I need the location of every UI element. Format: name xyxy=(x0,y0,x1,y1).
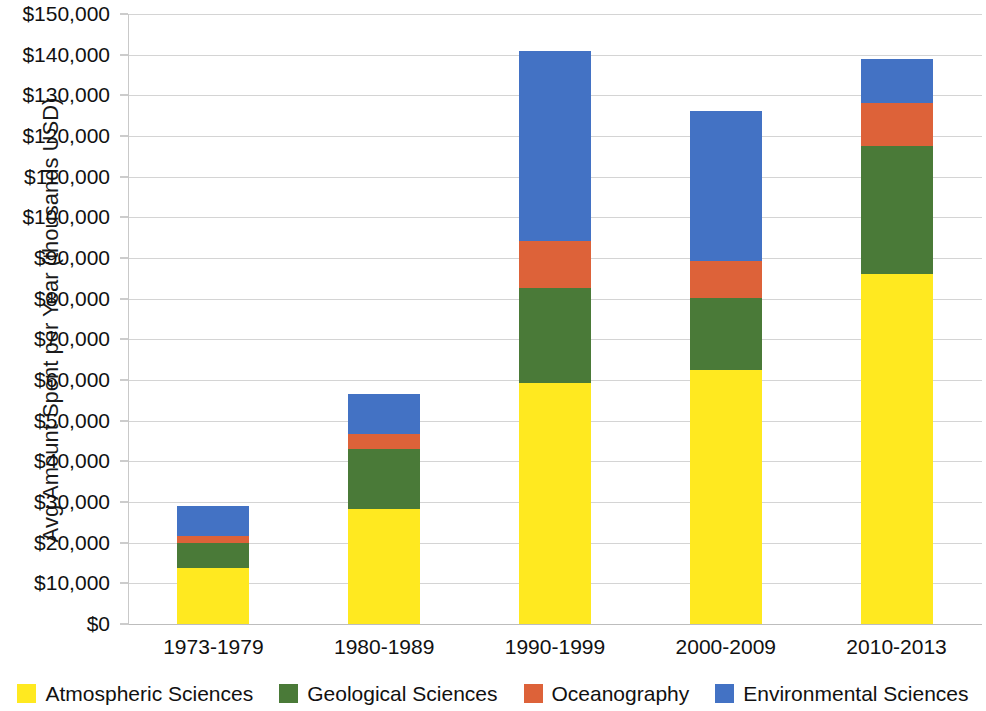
chart-legend: Atmospheric SciencesGeological SciencesO… xyxy=(0,676,986,711)
stacked-bar[interactable] xyxy=(861,59,933,624)
y-axis-tick-mark xyxy=(120,176,128,177)
x-axis-tick-label: 1990-1999 xyxy=(470,628,641,668)
y-axis-tick-mark xyxy=(120,542,128,543)
y-axis-tick-mark xyxy=(120,95,128,96)
y-axis-tick-mark xyxy=(120,258,128,259)
legend-swatch-icon xyxy=(17,684,36,703)
stacked-bar[interactable] xyxy=(348,394,420,624)
y-axis-tick-label: $120,000 xyxy=(22,124,110,148)
y-axis-tick-label: $80,000 xyxy=(34,287,110,311)
bar-segment[interactable] xyxy=(861,59,933,103)
y-axis-tick-mark xyxy=(120,136,128,137)
legend-item[interactable]: Oceanography xyxy=(524,682,690,706)
y-axis-tick-label: $0 xyxy=(87,612,110,636)
x-axis-tick-label: 2000-2009 xyxy=(640,628,811,668)
x-axis-tick-label: 1980-1989 xyxy=(299,628,470,668)
bar-segment[interactable] xyxy=(177,536,249,543)
x-axis-tick-label: 2010-2013 xyxy=(811,628,982,668)
y-axis-tick-label: $70,000 xyxy=(34,327,110,351)
bar-segment[interactable] xyxy=(348,509,420,624)
stacked-bar[interactable] xyxy=(177,506,249,624)
bar-segment[interactable] xyxy=(861,146,933,274)
bar-slot xyxy=(640,14,811,624)
legend-swatch-icon xyxy=(715,684,734,703)
bar-segment[interactable] xyxy=(519,383,591,624)
legend-label: Geological Sciences xyxy=(307,682,497,706)
legend-item[interactable]: Environmental Sciences xyxy=(715,682,968,706)
y-axis-tick-label: $140,000 xyxy=(22,43,110,67)
x-axis-tick-labels: 1973-19791980-19891990-19992000-20092010… xyxy=(128,628,982,668)
y-axis-tick-label: $10,000 xyxy=(34,571,110,595)
bar-segment[interactable] xyxy=(348,434,420,449)
stacked-bar-chart: Avg Amount Spent per Year (thousands USD… xyxy=(0,0,986,711)
bar-slot xyxy=(128,14,299,624)
bar-segment[interactable] xyxy=(690,298,762,370)
y-axis-tick-mark xyxy=(120,14,128,15)
y-axis-tick-mark xyxy=(120,583,128,584)
y-axis-tick-mark xyxy=(120,339,128,340)
bar-slot xyxy=(299,14,470,624)
y-axis-tick-label: $150,000 xyxy=(22,2,110,26)
y-axis-tick-label: $20,000 xyxy=(34,531,110,555)
y-axis-tick-label: $100,000 xyxy=(22,205,110,229)
legend-swatch-icon xyxy=(279,684,298,703)
bar-segment[interactable] xyxy=(519,51,591,240)
y-axis-tick-mark xyxy=(120,624,128,625)
bar-segment[interactable] xyxy=(348,394,420,434)
y-axis-tick-mark xyxy=(120,420,128,421)
legend-label: Atmospheric Sciences xyxy=(45,682,253,706)
bar-slot xyxy=(811,14,982,624)
bar-segment[interactable] xyxy=(861,274,933,624)
bar-series-group xyxy=(128,14,982,624)
axis-baseline xyxy=(128,624,982,625)
y-axis-tick-mark xyxy=(120,54,128,55)
bar-segment[interactable] xyxy=(519,241,591,288)
x-axis-tick-label: 1973-1979 xyxy=(128,628,299,668)
bar-segment[interactable] xyxy=(348,449,420,509)
y-axis-tick-label: $60,000 xyxy=(34,368,110,392)
bar-segment[interactable] xyxy=(690,370,762,624)
y-axis-tick-label: $130,000 xyxy=(22,83,110,107)
legend-item[interactable]: Geological Sciences xyxy=(279,682,497,706)
legend-label: Oceanography xyxy=(552,682,690,706)
bar-segment[interactable] xyxy=(861,103,933,146)
y-axis-tick-label: $110,000 xyxy=(24,165,110,189)
y-axis-tick-mark xyxy=(120,461,128,462)
y-axis-tick-label: $30,000 xyxy=(34,490,110,514)
stacked-bar[interactable] xyxy=(690,111,762,624)
y-axis-tick-label: $90,000 xyxy=(34,246,110,270)
legend-label: Environmental Sciences xyxy=(743,682,968,706)
bar-segment[interactable] xyxy=(690,111,762,261)
y-axis-tick-mark xyxy=(120,502,128,503)
y-axis-tick-mark xyxy=(120,298,128,299)
legend-item[interactable]: Atmospheric Sciences xyxy=(17,682,253,706)
y-axis-tick-mark xyxy=(120,217,128,218)
y-axis-tick-label: $50,000 xyxy=(34,409,110,433)
bar-slot xyxy=(470,14,641,624)
bar-segment[interactable] xyxy=(177,568,249,624)
stacked-bar[interactable] xyxy=(519,51,591,624)
legend-swatch-icon xyxy=(524,684,543,703)
bar-segment[interactable] xyxy=(690,261,762,298)
bar-segment[interactable] xyxy=(519,288,591,383)
y-axis-tick-mark xyxy=(120,380,128,381)
bar-segment[interactable] xyxy=(177,543,249,568)
y-axis-tick-label: $40,000 xyxy=(34,449,110,473)
y-axis-tick-labels: $150,000$140,000$130,000$120,000$110,000… xyxy=(0,0,120,640)
bar-segment[interactable] xyxy=(177,506,249,536)
